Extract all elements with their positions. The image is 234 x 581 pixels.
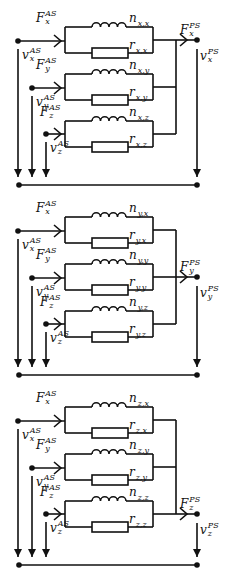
subscript: y xyxy=(45,445,56,453)
resistor-z-1 xyxy=(92,475,128,485)
inductor-x-0 xyxy=(92,23,126,27)
subscript: z xyxy=(49,492,60,500)
subscript: x,x xyxy=(138,20,150,28)
subscript: z xyxy=(58,148,69,156)
output-node-y xyxy=(194,274,200,280)
inductor-y-1 xyxy=(92,260,126,264)
output-force-label-y: FPSy xyxy=(180,259,200,275)
symbol: r xyxy=(129,38,135,52)
input-force-label-x-0: FASx xyxy=(36,10,57,26)
symbol: r xyxy=(129,512,135,526)
ground-node-left-x xyxy=(16,182,22,188)
subscript: z xyxy=(58,338,69,346)
resistor-z-0 xyxy=(92,428,128,438)
input-force-label-z-0: FASx xyxy=(36,390,57,406)
input-force-label-y-2: FASz xyxy=(40,294,61,310)
subscript: z,z xyxy=(136,521,147,529)
symbol: v xyxy=(50,521,57,535)
resistor-label-z-2: rz,z xyxy=(129,513,147,529)
subscript: z,x xyxy=(136,427,147,435)
symbol: F xyxy=(40,105,48,119)
inductor-label-z-2: nz,z xyxy=(129,486,149,502)
velocity-arrow-x-1 xyxy=(28,169,36,177)
symbol: v xyxy=(200,49,207,63)
output-velocity-label-z: vPSz xyxy=(200,522,219,538)
input-force-label-y-1: FASy xyxy=(36,247,57,263)
input-force-label-z-2: FASz xyxy=(40,484,61,500)
subscript: z,y xyxy=(138,447,149,455)
subscript: y xyxy=(45,65,56,73)
symbol: F xyxy=(36,201,44,215)
resistor-label-z-0: rz,x xyxy=(129,419,147,435)
subscript: z xyxy=(208,530,219,538)
symbol: F xyxy=(36,248,44,262)
symbol: n xyxy=(129,105,137,119)
symbol: F xyxy=(36,58,44,72)
symbol: r xyxy=(129,85,135,99)
symbol: r xyxy=(129,275,135,289)
inductor-x-2 xyxy=(92,117,126,121)
resistor-y-2 xyxy=(92,332,128,342)
resistor-x-2 xyxy=(92,142,128,152)
inductor-label-z-1: nz,y xyxy=(129,439,149,455)
subscript: z xyxy=(49,112,60,120)
subscript: x,x xyxy=(136,47,148,55)
velocity-arrow-y-0 xyxy=(14,359,22,367)
symbol: n xyxy=(129,391,137,405)
symbol: v xyxy=(50,331,57,345)
symbol: n xyxy=(129,58,137,72)
subscript: z,z xyxy=(138,494,149,502)
subscript: y xyxy=(208,293,219,301)
subscript: z,x xyxy=(138,400,149,408)
velocity-arrow-z-0 xyxy=(14,549,22,557)
output-node-z xyxy=(194,511,200,517)
symbol: F xyxy=(40,295,48,309)
subscript: x xyxy=(189,30,200,38)
resistor-y-0 xyxy=(92,238,128,248)
output-velocity-arrow-z xyxy=(193,549,201,557)
ground-node-left-y xyxy=(16,372,22,378)
velocity-arrow-z-1 xyxy=(28,549,36,557)
subscript: y,z xyxy=(138,304,148,312)
output-velocity-label-x: vPSx xyxy=(200,48,219,64)
inductor-z-1 xyxy=(92,450,126,454)
symbol: n xyxy=(129,485,137,499)
inductor-z-0 xyxy=(92,403,126,407)
inductor-z-2 xyxy=(92,497,126,501)
inductor-y-0 xyxy=(92,213,126,217)
resistor-label-x-2: rx,z xyxy=(129,133,147,149)
symbol: v xyxy=(50,141,57,155)
output-node-x xyxy=(194,37,200,43)
subscript: y xyxy=(189,267,200,275)
subscript: z xyxy=(189,504,200,512)
resistor-label-z-1: rz,y xyxy=(129,466,147,482)
symbol: n xyxy=(129,248,137,262)
subscript: x,y xyxy=(138,67,150,75)
symbol: r xyxy=(129,228,135,242)
inductor-label-y-2: ny,z xyxy=(129,296,148,312)
resistor-label-x-1: rx,y xyxy=(129,86,147,102)
subscript: y,x xyxy=(136,237,147,245)
ground-node-right-y xyxy=(194,372,200,378)
subscript: x,z xyxy=(138,114,149,122)
resistor-x-0 xyxy=(92,48,128,58)
resistor-z-2 xyxy=(92,522,128,532)
input-force-label-x-1: FASy xyxy=(36,57,57,73)
symbol: F xyxy=(36,391,44,405)
subscript: x xyxy=(45,208,56,216)
subscript: y xyxy=(45,255,56,263)
input-force-label-y-0: FASx xyxy=(36,200,57,216)
output-force-label-x: FPSx xyxy=(180,22,200,38)
velocity-arrow-x-2 xyxy=(42,169,50,177)
symbol: r xyxy=(129,322,135,336)
resistor-label-y-1: ry,y xyxy=(129,276,146,292)
inductor-label-z-0: nz,x xyxy=(129,392,149,408)
inductor-x-1 xyxy=(92,70,126,74)
resistor-label-y-0: ry,x xyxy=(129,229,146,245)
subscript: z xyxy=(49,302,60,310)
input-velocity-label-y-2: vASz xyxy=(50,330,69,346)
velocity-arrow-y-1 xyxy=(28,359,36,367)
symbol: r xyxy=(129,132,135,146)
subscript: y,x xyxy=(138,210,149,218)
inductor-y-2 xyxy=(92,307,126,311)
